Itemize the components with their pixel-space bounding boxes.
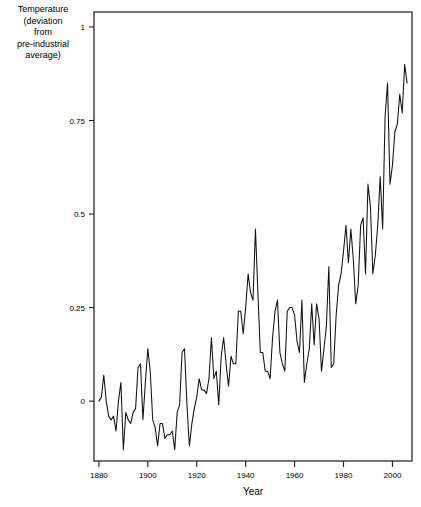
y-tick-label: 0 <box>81 397 86 406</box>
x-axis-ticks: 1880190019201940196019802000 <box>90 461 402 480</box>
y-tick-label: 0.5 <box>74 210 86 219</box>
x-axis-label: Year <box>94 486 412 497</box>
x-tick-label: 1980 <box>335 471 353 480</box>
x-tick-label: 1920 <box>188 471 206 480</box>
x-tick-label: 1900 <box>139 471 157 480</box>
x-tick-label: 1940 <box>237 471 255 480</box>
y-axis-label: Temperature (deviation from pre-industri… <box>0 4 86 62</box>
x-tick-label: 1960 <box>286 471 304 480</box>
y-tick-label: 0.75 <box>69 117 85 126</box>
x-tick-label: 2000 <box>384 471 402 480</box>
y-axis-ticks: 00.250.50.751 <box>69 23 94 406</box>
y-tick-label: 0.25 <box>69 304 85 313</box>
x-tick-label: 1880 <box>90 471 108 480</box>
plot-area: 00.250.50.751 18801900192019401960198020… <box>0 0 421 507</box>
temperature-anomaly-chart: Temperature (deviation from pre-industri… <box>0 0 421 507</box>
